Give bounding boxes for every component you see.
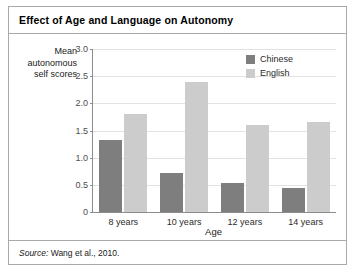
legend-item: Chinese	[246, 52, 293, 66]
legend-item: English	[246, 66, 293, 80]
y-axis-tick-label: 3.0	[75, 44, 88, 54]
bar-english	[307, 122, 330, 212]
plot-area: 00.51.01.52.02.53.08 years10 years12 yea…	[92, 49, 336, 213]
page-title: Effect of Age and Language on Autonomy	[19, 14, 233, 26]
y-axis-tick-label: 2.5	[75, 71, 88, 81]
y-axis-tick-label: 0.5	[75, 180, 88, 190]
y-axis-tick-label: 1.5	[75, 126, 88, 136]
y-axis-tick-label: 2.0	[75, 98, 88, 108]
figure-frame: Effect of Age and Language on Autonomy M…	[8, 6, 347, 265]
bar-english	[185, 82, 208, 212]
legend-label: English	[260, 68, 290, 78]
legend-label: Chinese	[260, 54, 293, 64]
y-axis-tick-label: 0	[83, 207, 88, 217]
bar-chinese	[160, 173, 183, 212]
source-note: Source: Wang et al., 2010.	[19, 248, 119, 258]
source-label: Source:	[19, 248, 48, 258]
chart-legend: ChineseEnglish	[246, 52, 293, 80]
plot-wrapper: Mean autonomous self scores 00.51.01.52.…	[9, 34, 346, 241]
bar-chinese	[99, 140, 122, 212]
y-axis-title: Mean autonomous self scores	[9, 46, 77, 81]
title-band: Effect of Age and Language on Autonomy	[9, 7, 346, 34]
bar-chinese	[282, 188, 305, 212]
bar-chinese	[221, 183, 244, 212]
legend-swatch-english	[246, 69, 255, 78]
bar-group: 8 years	[93, 49, 154, 212]
footer-band: Source: Wang et al., 2010.	[9, 240, 346, 264]
y-axis-title-line-2: autonomous	[9, 58, 77, 70]
bar-english	[246, 125, 269, 212]
source-text: Wang et al., 2010.	[51, 248, 120, 258]
chart-figure: Effect of Age and Language on Autonomy M…	[0, 0, 355, 272]
legend-swatch-chinese	[246, 55, 255, 64]
y-axis-title-line-1: Mean	[9, 46, 77, 58]
bar-english	[124, 114, 147, 212]
x-axis-title: Age	[92, 226, 335, 237]
bar-group: 10 years	[154, 49, 215, 212]
y-axis-title-line-3: self scores	[9, 69, 77, 81]
y-axis-tick-mark	[90, 212, 93, 213]
y-axis-tick-label: 1.0	[75, 153, 88, 163]
